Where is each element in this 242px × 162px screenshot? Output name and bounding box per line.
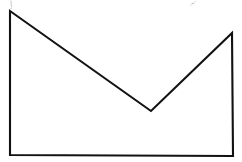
- envelope-polygon-outline: [10, 11, 233, 156]
- scan-artifact-group: [11, 1, 197, 9]
- line-drawing-svg: Envelope polygon line drawing: [0, 0, 242, 162]
- scan-speck-top-left-icon: [11, 1, 12, 7]
- envelope-polygon-group: [10, 11, 233, 156]
- figure-canvas: Envelope polygon line drawing: [0, 0, 242, 162]
